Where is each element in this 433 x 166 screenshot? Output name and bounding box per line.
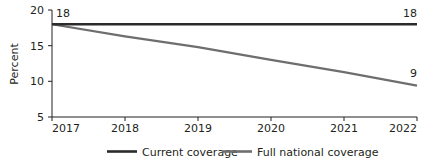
line-chart: Percent 20 15 10 5 2017 2018 2019	[0, 0, 433, 166]
x-axis-ticks: 2017 2018 2019 2020 2021 2022	[52, 117, 417, 135]
x-tick-label-2020: 2020	[257, 122, 285, 135]
data-label-end-current-18: 18	[403, 7, 417, 20]
legend-label-full-national-coverage: Full national coverage	[257, 146, 379, 159]
x-tick-label-2021: 2021	[330, 122, 358, 135]
series-line-full-national-coverage	[52, 24, 417, 85]
y-tick-label-10: 10	[30, 75, 44, 88]
y-axis-ticks: 20 15 10 5	[30, 4, 52, 124]
x-tick-label-2018: 2018	[111, 122, 139, 135]
y-axis-title: Percent	[8, 43, 21, 85]
chart-legend: Current coverage Full national coverage	[107, 146, 379, 159]
y-tick-label-15: 15	[30, 40, 44, 53]
y-tick-label-5: 5	[37, 111, 44, 124]
y-tick-label-20: 20	[30, 4, 44, 17]
x-tick-label-2022: 2022	[389, 122, 417, 135]
data-label-end-full-9: 9	[410, 67, 417, 80]
x-tick-label-2019: 2019	[184, 122, 212, 135]
x-tick-label-2017: 2017	[52, 122, 80, 135]
chart-canvas: Percent 20 15 10 5 2017 2018 2019	[0, 0, 433, 166]
data-label-start-18: 18	[56, 7, 70, 20]
